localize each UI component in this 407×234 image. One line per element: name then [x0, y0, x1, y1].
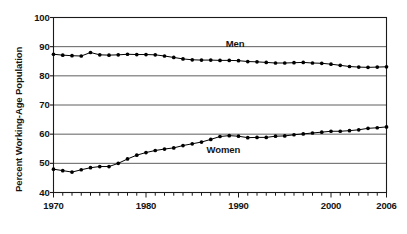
data-point-women-1988: [218, 135, 222, 139]
data-point-men-2002: [348, 65, 352, 69]
data-point-men-1981: [153, 53, 157, 57]
data-point-women-1977: [116, 161, 120, 165]
data-point-women-1983: [172, 146, 176, 150]
data-point-men-1970: [52, 52, 56, 56]
data-point-women-1987: [209, 138, 213, 142]
data-point-women-1997: [301, 132, 305, 136]
data-point-women-2005: [375, 126, 379, 130]
y-tick-label-100: 100: [26, 12, 50, 23]
data-point-women-1973: [79, 168, 83, 172]
data-point-women-2003: [357, 128, 361, 132]
data-point-women-2004: [366, 126, 370, 130]
data-point-men-1994: [274, 61, 278, 65]
data-point-men-1983: [172, 56, 176, 60]
data-point-women-2001: [338, 129, 342, 133]
data-point-men-2005: [375, 65, 379, 69]
data-point-men-1972: [70, 54, 74, 58]
data-point-men-2003: [357, 65, 361, 69]
x-tick-label-1980: 1980: [126, 200, 166, 211]
data-point-men-1998: [311, 61, 315, 65]
data-point-men-1973: [79, 54, 83, 58]
data-point-men-1982: [163, 54, 167, 58]
data-point-men-1975: [98, 53, 102, 57]
data-point-men-2001: [338, 63, 342, 67]
data-point-men-1993: [264, 61, 268, 65]
x-tick-label-1990: 1990: [219, 200, 259, 211]
data-point-women-1976: [107, 165, 111, 169]
data-point-men-1995: [283, 61, 287, 65]
data-point-women-1995: [283, 134, 287, 138]
data-point-men-1977: [116, 53, 120, 57]
data-point-women-1971: [61, 169, 65, 173]
data-point-women-1989: [227, 134, 231, 138]
data-point-men-1991: [246, 60, 250, 64]
y-tick-label-50: 50: [26, 157, 50, 168]
data-point-men-1986: [200, 58, 204, 62]
data-point-men-1974: [89, 51, 93, 55]
data-point-women-1985: [190, 142, 194, 146]
data-point-women-1979: [135, 153, 139, 157]
data-point-women-2002: [348, 129, 352, 133]
y-tick-label-90: 90: [26, 41, 50, 52]
data-point-men-1989: [227, 59, 231, 63]
data-point-men-1990: [237, 59, 241, 63]
data-point-men-1976: [107, 53, 111, 57]
data-point-women-1992: [255, 136, 259, 140]
data-point-men-1984: [181, 57, 185, 61]
data-point-women-1975: [98, 165, 102, 169]
data-point-men-1997: [301, 61, 305, 65]
data-point-women-2000: [329, 129, 333, 133]
data-point-women-1998: [311, 131, 315, 135]
y-tick-label-70: 70: [26, 99, 50, 110]
data-point-men-1980: [144, 53, 148, 57]
data-point-men-2004: [366, 66, 370, 70]
y-tick-label-40: 40: [26, 187, 50, 198]
data-point-men-2006: [385, 65, 389, 69]
y-tick-label-60: 60: [26, 128, 50, 139]
data-point-women-1984: [181, 144, 185, 148]
data-point-women-1990: [237, 134, 241, 138]
y-tick-label-80: 80: [26, 70, 50, 81]
data-point-men-1988: [218, 59, 222, 63]
data-point-men-1992: [255, 60, 259, 64]
x-tick-label-2000: 2000: [311, 200, 351, 211]
x-tick-label-1970: 1970: [34, 200, 74, 211]
data-point-women-1981: [153, 149, 157, 153]
data-point-women-1996: [292, 133, 296, 137]
data-point-women-1980: [144, 151, 148, 155]
data-point-men-2000: [329, 62, 333, 66]
x-tick-label-2006: 2006: [367, 200, 407, 211]
data-point-men-1999: [320, 61, 324, 65]
series-annotation-men: Men: [226, 38, 245, 49]
data-point-men-1987: [209, 58, 213, 62]
data-point-women-1986: [200, 140, 204, 144]
data-point-men-1996: [292, 61, 296, 65]
chart-container: Percent Working-Age Population 405060708…: [0, 0, 407, 234]
data-point-women-1991: [246, 136, 250, 140]
data-point-women-1982: [163, 147, 167, 151]
data-point-women-1974: [89, 166, 93, 170]
data-point-men-1971: [61, 53, 65, 57]
data-point-women-1970: [52, 167, 56, 171]
data-point-men-1978: [126, 52, 130, 56]
data-point-women-1993: [264, 136, 268, 140]
data-point-women-1999: [320, 130, 324, 134]
data-point-women-1978: [126, 157, 130, 161]
data-point-women-1972: [70, 170, 74, 174]
data-point-women-2006: [385, 125, 389, 129]
data-point-men-1979: [135, 53, 139, 57]
data-point-men-1985: [190, 58, 194, 62]
series-annotation-women: Women: [207, 144, 241, 155]
data-point-women-1994: [274, 134, 278, 138]
